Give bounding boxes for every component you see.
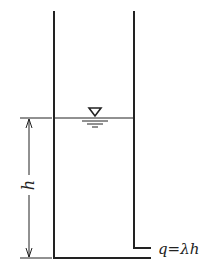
tank-diagram: h q=λh (0, 0, 216, 272)
height-label: h (19, 180, 38, 190)
outflow-label: q=λh (158, 240, 199, 258)
